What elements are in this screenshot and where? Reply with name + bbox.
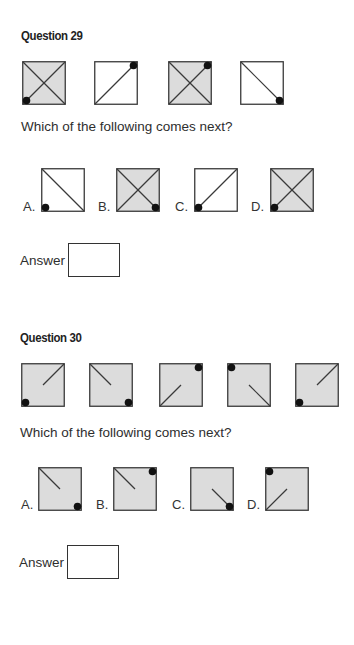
q30-option-c-figure[interactable] xyxy=(190,467,234,511)
q30-option-a-figure[interactable] xyxy=(38,467,82,511)
q30-sequence-figure-2 xyxy=(89,363,133,407)
corner-dot-icon xyxy=(22,399,30,407)
q29-answer-input[interactable] xyxy=(68,243,120,277)
q30-sequence-figure-3 xyxy=(159,363,203,407)
corner-dot-icon xyxy=(74,503,82,511)
q29-option-d-label: D. xyxy=(251,199,264,214)
q29-sequence-figure-2 xyxy=(94,61,138,105)
q30-prompt: Which of the following comes next? xyxy=(20,425,232,440)
corner-dot-icon xyxy=(149,468,157,476)
q29-option-c-label: C. xyxy=(175,199,188,214)
q30-answer-label: Answer xyxy=(19,555,64,570)
q29-sequence-figure-1 xyxy=(22,61,66,105)
corner-dot-icon xyxy=(266,468,274,476)
q29-option-c-figure[interactable] xyxy=(194,168,238,212)
q30-sequence-figure-1 xyxy=(21,363,65,407)
corner-dot-icon xyxy=(271,204,279,212)
corner-dot-icon xyxy=(130,62,138,70)
corner-dot-icon xyxy=(226,503,234,511)
q29-option-b-label: B. xyxy=(98,199,110,214)
q30-answer-input[interactable] xyxy=(67,545,119,579)
q29-sequence-figure-4 xyxy=(240,61,284,105)
q30-option-c-label: C. xyxy=(172,497,185,512)
corner-dot-icon xyxy=(204,62,212,70)
q29-prompt: Which of the following comes next? xyxy=(21,119,233,134)
corner-dot-icon xyxy=(23,97,31,105)
q29-option-a-figure[interactable] xyxy=(41,168,85,212)
q30-option-b-label: B. xyxy=(96,497,108,512)
q30-option-a-label: A. xyxy=(21,497,33,512)
corner-dot-icon xyxy=(276,97,284,105)
q30-sequence-figure-4 xyxy=(227,363,271,407)
question-30-title: Question 30 xyxy=(20,330,82,345)
corner-dot-icon xyxy=(195,364,203,372)
corner-dot-icon xyxy=(42,204,50,212)
corner-dot-icon xyxy=(296,399,304,407)
corner-dot-icon xyxy=(228,364,236,372)
q30-option-d-label: D. xyxy=(247,497,260,512)
corner-dot-icon xyxy=(195,204,203,212)
q30-option-b-figure[interactable] xyxy=(113,467,157,511)
q29-answer-label: Answer xyxy=(20,253,65,268)
q29-option-b-figure[interactable] xyxy=(116,168,160,212)
question-29-title: Question 29 xyxy=(21,28,83,43)
q30-option-d-figure[interactable] xyxy=(265,467,309,511)
q30-sequence-figure-5 xyxy=(295,363,339,407)
corner-dot-icon xyxy=(125,399,133,407)
q29-option-a-label: A. xyxy=(23,199,35,214)
corner-dot-icon xyxy=(152,204,160,212)
q29-option-d-figure[interactable] xyxy=(270,168,314,212)
q29-sequence-figure-3 xyxy=(168,61,212,105)
